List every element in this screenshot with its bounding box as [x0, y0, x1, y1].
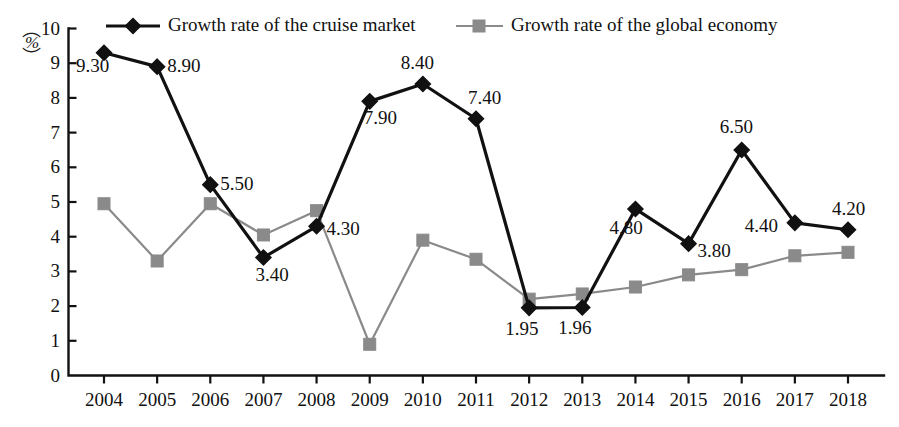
line-chart: ︵ % ︶ 109876543210 200420052006200720082…	[0, 0, 899, 427]
x-tick-label: 2008	[287, 390, 347, 409]
data-point-marker	[204, 198, 216, 210]
data-label: 1.95	[505, 319, 538, 338]
data-point-marker	[151, 255, 163, 267]
y-tick-label: 8	[18, 88, 60, 107]
data-point-marker	[470, 253, 482, 265]
data-label: 4.40	[745, 216, 778, 235]
y-tick-label: 3	[18, 261, 60, 280]
x-tick-label: 2004	[74, 390, 134, 409]
x-tick-label: 2018	[818, 390, 878, 409]
x-tick-label: 2006	[180, 390, 240, 409]
data-label: 3.80	[698, 241, 731, 260]
data-point-marker	[736, 264, 748, 276]
data-label: 4.80	[609, 218, 642, 237]
y-tick-label: 9	[18, 53, 60, 72]
x-tick-label: 2011	[446, 390, 506, 409]
x-tick-label: 2014	[605, 390, 665, 409]
y-tick-label: 2	[18, 296, 60, 315]
y-tick-label: 6	[18, 157, 60, 176]
data-label: 6.50	[720, 117, 753, 136]
legend-item-label[interactable]: Growth rate of the global economy	[511, 15, 777, 34]
x-tick-label: 2012	[499, 390, 559, 409]
data-point-marker	[417, 234, 429, 246]
data-point-marker	[842, 246, 854, 258]
data-point-marker	[683, 269, 695, 281]
x-tick-label: 2005	[127, 390, 187, 409]
data-point-marker	[364, 338, 376, 350]
data-point-marker	[150, 59, 165, 74]
series-2	[98, 198, 854, 351]
data-label: 5.50	[220, 174, 253, 193]
data-label: 4.30	[327, 219, 360, 238]
x-tick-label: 2015	[659, 390, 719, 409]
x-tick-label: 2016	[712, 390, 772, 409]
chart-axes	[69, 29, 885, 384]
data-point-marker	[789, 250, 801, 262]
y-tick-label: 7	[18, 123, 60, 142]
x-tick-label: 2007	[233, 390, 293, 409]
y-tick-label: 0	[18, 366, 60, 385]
y-tick-label: 5	[18, 192, 60, 211]
x-tick-label: 2009	[340, 390, 400, 409]
data-point-marker	[126, 19, 141, 34]
data-point-marker	[575, 300, 590, 315]
data-point-marker	[841, 222, 856, 237]
y-tick-label: 4	[18, 227, 60, 246]
y-tick-label: 10	[18, 19, 60, 38]
data-point-marker	[629, 281, 641, 293]
data-label: 4.20	[832, 199, 865, 218]
x-tick-label: 2013	[552, 390, 612, 409]
data-point-marker	[473, 20, 485, 32]
legend-item-label[interactable]: Growth rate of the cruise market	[168, 15, 415, 34]
data-label: 9.30	[76, 56, 109, 75]
data-point-marker	[98, 198, 110, 210]
data-label: 7.90	[364, 108, 397, 127]
data-label: 8.40	[401, 53, 434, 72]
data-point-marker	[257, 229, 269, 241]
data-label: 7.40	[468, 88, 501, 107]
data-label: 1.96	[558, 318, 591, 337]
data-label: 8.90	[167, 56, 200, 75]
data-label: 3.40	[255, 265, 288, 284]
y-tick-label: 1	[18, 331, 60, 350]
x-tick-label: 2017	[765, 390, 825, 409]
x-tick-label: 2010	[393, 390, 453, 409]
chart-canvas	[0, 0, 899, 427]
